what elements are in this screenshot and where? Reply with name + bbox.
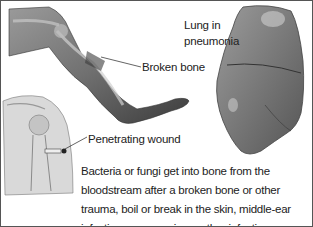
lung-illustration [217,6,304,154]
lung-label-line1: Lung in [184,18,220,33]
lung-label-line2: pneumonia [184,34,239,49]
penetrating-wound-label: Penetrating wound [88,132,181,147]
broken-bone-label: Broken bone [142,60,205,75]
figure-caption: Bacteria or fungi get into bone from the… [81,162,313,227]
osteomyelitis-figure: Broken bone Lung in pneumonia Penetratin… [0,0,313,227]
shoulder-illustration [3,96,87,195]
